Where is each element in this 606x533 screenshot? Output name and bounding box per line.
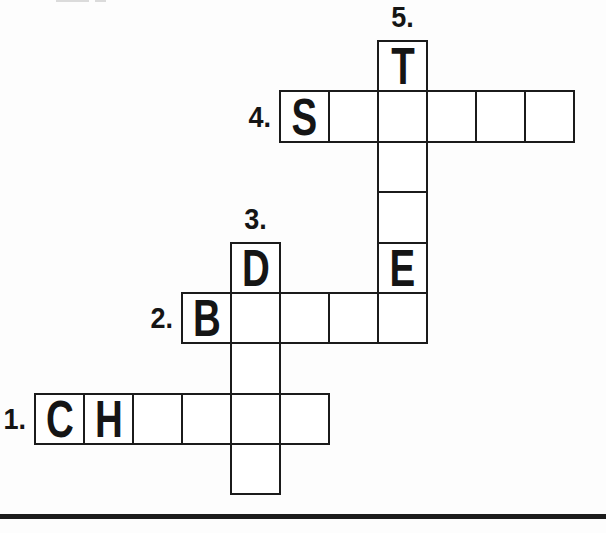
crossword-cell[interactable]: B: [181, 292, 232, 344]
clue-number-4: 4.: [201, 90, 271, 143]
crossword-cell[interactable]: [181, 393, 232, 445]
crossword-cell[interactable]: [426, 90, 477, 143]
cell-letter: C: [46, 393, 74, 445]
crossword-cell[interactable]: [377, 292, 428, 344]
clue-number-5: 5.: [380, 0, 426, 34]
cell-letter: S: [292, 91, 318, 143]
crossword-cell[interactable]: C: [34, 393, 85, 445]
crossword-cell[interactable]: [230, 342, 281, 395]
crossword-cell[interactable]: [524, 90, 575, 143]
crossword-cell[interactable]: [230, 393, 281, 445]
crossword-cell[interactable]: [328, 292, 379, 344]
cell-letter: D: [242, 242, 270, 294]
crossword-cell[interactable]: [279, 292, 330, 344]
crossword-cell[interactable]: [377, 191, 428, 244]
crossword-cell[interactable]: E: [377, 242, 428, 294]
crossword-cell[interactable]: [132, 393, 183, 445]
crossword-cell[interactable]: [328, 90, 379, 143]
crossword-cell[interactable]: T: [377, 40, 428, 92]
cell-letter: H: [95, 393, 123, 445]
page-edge-artifact: [95, 0, 106, 2]
cell-letter: T: [391, 40, 415, 92]
crossword-cell[interactable]: S: [279, 90, 330, 143]
cell-letter: B: [193, 292, 221, 344]
crossword-cell[interactable]: [377, 141, 428, 193]
page-edge-artifact: [56, 0, 89, 2]
cell-letter: E: [390, 242, 416, 294]
crossword-cell[interactable]: [377, 90, 428, 143]
crossword-cell[interactable]: [475, 90, 526, 143]
crossword-cell[interactable]: D: [230, 242, 281, 294]
crossword-worksheet: CHBDSTE1.2.3.4.5.: [0, 0, 606, 533]
page-divider-line: [0, 514, 606, 519]
crossword-cell[interactable]: [230, 443, 281, 495]
crossword-cell[interactable]: [279, 393, 330, 445]
crossword-cell[interactable]: [230, 292, 281, 344]
clue-number-2: 2.: [103, 292, 173, 344]
crossword-cell[interactable]: H: [83, 393, 134, 445]
clue-number-1: 1.: [0, 393, 26, 445]
clue-number-3: 3.: [233, 202, 279, 236]
